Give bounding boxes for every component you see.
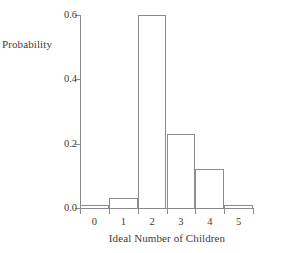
x-tick-mark <box>253 209 254 214</box>
y-tick-label: 0.4 <box>64 72 77 85</box>
x-tick-label: 1 <box>121 215 126 228</box>
y-tick-label: 0.2 <box>64 137 77 150</box>
x-tick-mark <box>167 209 168 214</box>
plot-area: 0.00.20.40.6 012345 <box>80 15 253 208</box>
x-tick-label: 2 <box>149 215 154 228</box>
histogram-bar <box>109 198 138 208</box>
y-tick-label: 0.0 <box>64 201 77 214</box>
x-tick-label: 3 <box>178 215 183 228</box>
x-tick-mark <box>138 209 139 214</box>
x-tick-label: 4 <box>207 215 212 228</box>
histogram-bar <box>138 15 167 208</box>
y-axis-line <box>80 15 81 209</box>
y-tick-label: 0.6 <box>64 8 77 21</box>
histogram-bar <box>167 134 196 208</box>
histogram-figure: Probability 0.00.20.40.6 012345 Ideal Nu… <box>0 0 298 253</box>
histogram-bar <box>195 169 224 208</box>
x-axis-title: Ideal Number of Children <box>80 231 254 245</box>
x-tick-mark <box>109 209 110 214</box>
x-tick-label: 0 <box>92 215 97 228</box>
x-tick-mark <box>224 209 225 214</box>
x-tick-mark <box>195 209 196 214</box>
y-axis-title: Probability <box>2 38 52 51</box>
histogram-bar <box>80 205 109 208</box>
x-tick-label: 5 <box>236 215 241 228</box>
histogram-bar <box>224 205 253 208</box>
x-tick-mark <box>80 209 81 214</box>
